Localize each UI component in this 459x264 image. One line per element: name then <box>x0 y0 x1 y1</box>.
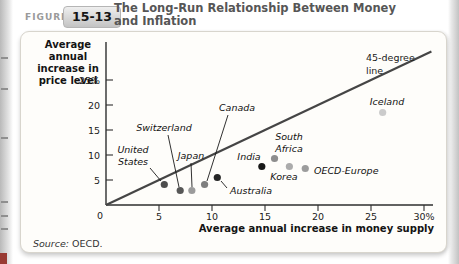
x-tick-label: 10 <box>206 211 218 222</box>
data-point-switzerland <box>177 187 184 194</box>
data-point-iceland <box>379 109 386 116</box>
data-point-korea <box>286 163 293 170</box>
data-point-oecd-europe <box>302 165 309 172</box>
country-label: Japan <box>176 150 205 161</box>
chart-svg: 51015202530%0510152025%45-degreelineUnit… <box>0 0 459 264</box>
country-label: India <box>237 151 260 162</box>
origin-label: 0 <box>97 210 103 221</box>
y-tick-label: 25% <box>79 75 100 86</box>
country-label: States <box>118 156 148 167</box>
country-label: United <box>117 144 149 155</box>
data-point-united-states <box>161 181 168 188</box>
country-label: South <box>275 131 303 142</box>
x-tick-label: 20 <box>312 211 324 222</box>
data-point-south-africa <box>271 155 278 162</box>
data-point-india <box>258 163 265 170</box>
45-degree-line-label: line <box>366 65 383 76</box>
x-tick-label: 30% <box>413 211 434 222</box>
textbook-figure-page: FIGURE 15-13 The Long-Run Relationship B… <box>0 0 459 264</box>
country-label: Canada <box>219 102 255 113</box>
data-point-japan <box>188 187 195 194</box>
country-label: Korea <box>270 171 297 182</box>
y-tick-label: 10 <box>88 150 100 161</box>
country-label: Australia <box>229 185 272 196</box>
country-label: Iceland <box>370 96 405 107</box>
data-point-canada <box>201 181 208 188</box>
leader-line <box>221 181 227 188</box>
country-label: OECD-Europe <box>314 165 379 176</box>
x-tick-label: 15 <box>259 211 271 222</box>
x-tick-label: 25 <box>365 211 377 222</box>
leader-line <box>168 135 179 187</box>
y-tick-label: 5 <box>94 175 100 186</box>
country-label: Africa <box>274 143 303 154</box>
45-degree-line-label: 45-degree <box>366 52 415 63</box>
y-tick-label: 15 <box>88 125 100 136</box>
country-label: Switzerland <box>136 122 192 133</box>
y-tick-label: 20 <box>88 100 100 111</box>
x-tick-label: 5 <box>156 211 162 222</box>
leader-line <box>150 168 161 181</box>
data-point-australia <box>214 174 221 181</box>
leader-line <box>191 163 192 187</box>
